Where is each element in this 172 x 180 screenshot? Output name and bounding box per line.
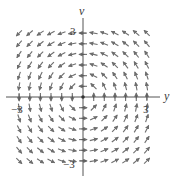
field-arrow [133, 41, 139, 47]
tick-label-x-negative: −3 [11, 103, 23, 115]
field-arrow [16, 30, 22, 36]
field-arrow [60, 104, 64, 111]
field-arrow [111, 159, 118, 163]
field-arrow [90, 117, 97, 121]
field-arrow [69, 117, 76, 121]
field-arrow [48, 31, 55, 35]
field-arrow [58, 149, 65, 152]
field-arrow [101, 63, 108, 68]
field-arrow [124, 115, 128, 122]
field-arrow [90, 128, 98, 131]
field-arrow [91, 84, 97, 90]
field-arrow [112, 52, 118, 57]
field-arrow [18, 72, 21, 80]
field-arrow [101, 138, 108, 142]
field-arrow [48, 62, 54, 68]
field-arrow [90, 32, 98, 33]
field-arrow [146, 82, 147, 90]
field-arrow [37, 41, 43, 46]
field-arrow [146, 72, 149, 80]
field-arrow [101, 53, 108, 57]
field-arrow [58, 127, 65, 132]
horizontal-axis-label: y [163, 89, 170, 103]
field-arrow [112, 62, 118, 68]
field-arrow [50, 104, 53, 112]
field-arrow [114, 104, 117, 112]
field-arrow [38, 126, 43, 132]
field-arrow [145, 51, 149, 58]
field-arrow [123, 62, 128, 69]
field-arrow [18, 82, 19, 90]
field-arrow [146, 115, 149, 123]
field-arrow [123, 137, 129, 143]
field-arrow [58, 32, 66, 35]
field-arrow [48, 52, 55, 57]
field-arrow [90, 160, 98, 161]
field-arrow [27, 137, 32, 143]
field-arrow [112, 137, 118, 142]
field-arrow [145, 62, 149, 69]
field-arrow [69, 53, 77, 55]
field-arrow [50, 83, 53, 91]
field-arrow [145, 136, 149, 143]
field-arrow [123, 126, 128, 132]
field-arrow [59, 116, 65, 122]
field-arrow [39, 104, 41, 112]
field-arrow [17, 51, 21, 58]
field-arrow [38, 62, 43, 69]
field-arrow [90, 139, 98, 141]
field-arrow [69, 128, 77, 131]
tick-label-y-negative: −3 [63, 158, 75, 170]
field-arrow [113, 115, 118, 122]
origin-dot [81, 95, 85, 99]
field-arrow [101, 42, 108, 45]
field-arrow [113, 72, 118, 79]
field-arrow [114, 83, 117, 91]
field-arrow [122, 31, 129, 35]
field-arrow [17, 136, 21, 143]
field-arrow [48, 126, 54, 132]
vector-field-plot: y v 3 −3 3 −3 [0, 0, 172, 180]
field-arrow [59, 73, 65, 79]
field-arrow [135, 72, 138, 79]
field-arrow [68, 150, 76, 152]
field-arrow [134, 137, 139, 143]
field-arrow [136, 82, 138, 90]
field-arrow [123, 52, 129, 58]
field-arrow [90, 53, 98, 55]
axes [6, 18, 160, 176]
tick-label-x-positive: 3 [143, 103, 149, 115]
field-arrow [37, 148, 43, 153]
tick-label-y-positive: 3 [70, 25, 76, 37]
field-arrow [28, 72, 31, 79]
field-arrow [68, 43, 76, 45]
field-arrow [17, 62, 21, 69]
field-arrow [48, 137, 55, 142]
field-arrow [112, 42, 119, 46]
field-arrow [69, 64, 77, 67]
field-arrow [102, 116, 108, 122]
field-arrow [18, 115, 21, 123]
field-arrow [133, 147, 139, 153]
field-arrow [134, 62, 138, 69]
field-arrow [90, 150, 98, 152]
field-arrow [16, 158, 22, 164]
field-arrow [17, 147, 22, 153]
field-arrow [90, 43, 98, 45]
field-arrow [133, 158, 139, 163]
field-arrow [135, 115, 138, 122]
field-arrow [27, 51, 32, 57]
field-arrow [123, 41, 129, 46]
field-arrow [38, 137, 44, 143]
field-arrow [111, 31, 118, 35]
field-arrow [29, 104, 31, 112]
field-arrow [49, 115, 54, 122]
field-arrow [144, 158, 150, 164]
field-arrow [101, 149, 108, 152]
field-arrow [133, 31, 139, 36]
field-arrow [27, 158, 33, 163]
field-arrow [39, 115, 43, 122]
field-arrow [27, 31, 33, 36]
field-arrow [39, 83, 41, 91]
field-arrow [29, 82, 31, 90]
